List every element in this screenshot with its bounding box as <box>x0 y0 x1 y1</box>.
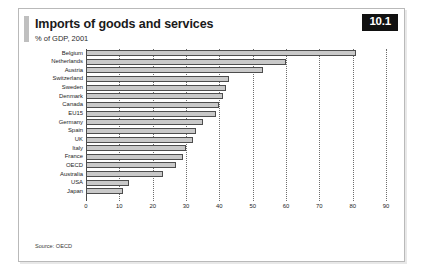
category-label: EU15 <box>33 111 83 117</box>
gridline-70 <box>319 49 320 201</box>
category-label: Japan <box>33 189 83 195</box>
bar <box>86 67 263 73</box>
chart-card: Imports of goods and services % of GDP, … <box>18 8 405 262</box>
x-tick-label-10: 10 <box>116 203 123 209</box>
gridline-60 <box>286 49 287 201</box>
category-label: Germany <box>33 120 83 126</box>
x-tick-label-90: 90 <box>383 203 390 209</box>
x-tick-label-50: 50 <box>249 203 256 209</box>
x-tick-label-80: 80 <box>349 203 356 209</box>
category-label: Sweden <box>33 85 83 91</box>
category-label: France <box>33 154 83 160</box>
category-label: Spain <box>33 128 83 134</box>
gridline-80 <box>353 49 354 201</box>
x-tick-label-70: 70 <box>316 203 323 209</box>
category-label: Netherlands <box>33 59 83 65</box>
page-subtitle: % of GDP, 2001 <box>35 34 88 43</box>
source-note: Source: OECD <box>35 243 72 249</box>
bar <box>86 188 123 194</box>
category-label: Australia <box>33 172 83 178</box>
bar <box>86 50 356 56</box>
title-accent-bar <box>24 16 29 42</box>
category-label: OECD <box>33 163 83 169</box>
bar <box>86 93 223 99</box>
category-label: USA <box>33 180 83 186</box>
category-label: Belgium <box>33 51 83 57</box>
x-tick-label-30: 30 <box>183 203 190 209</box>
x-tick-label-60: 60 <box>283 203 290 209</box>
bar <box>86 180 129 186</box>
bar <box>86 145 186 151</box>
bar <box>86 137 193 143</box>
bar <box>86 162 176 168</box>
figure-number-badge: 10.1 <box>362 14 398 31</box>
bar <box>86 119 203 125</box>
category-label: Canada <box>33 102 83 108</box>
x-tick-label-0: 0 <box>84 203 87 209</box>
bar <box>86 111 216 117</box>
category-label: UK <box>33 137 83 143</box>
category-label: Italy <box>33 146 83 152</box>
bar <box>86 85 226 91</box>
bar <box>86 128 196 134</box>
x-tick-label-20: 20 <box>149 203 156 209</box>
x-tick-label-40: 40 <box>216 203 223 209</box>
category-label: Austria <box>33 68 83 74</box>
chart-page: Imports of goods and services % of GDP, … <box>0 0 426 280</box>
bars-panel: 0102030405060708090 <box>86 49 386 196</box>
category-axis-labels: BelgiumNetherlandsAustriaSwitzerlandSwed… <box>33 49 83 196</box>
gridline-90 <box>386 49 387 201</box>
bar <box>86 154 183 160</box>
page-title: Imports of goods and services <box>35 17 213 31</box>
category-label: Switzerland <box>33 76 83 82</box>
bar <box>86 171 163 177</box>
category-label: Denmark <box>33 94 83 100</box>
bar <box>86 102 219 108</box>
bar <box>86 59 286 65</box>
bar <box>86 76 229 82</box>
chart-plot-area: BelgiumNetherlandsAustriaSwitzerlandSwed… <box>33 49 391 229</box>
